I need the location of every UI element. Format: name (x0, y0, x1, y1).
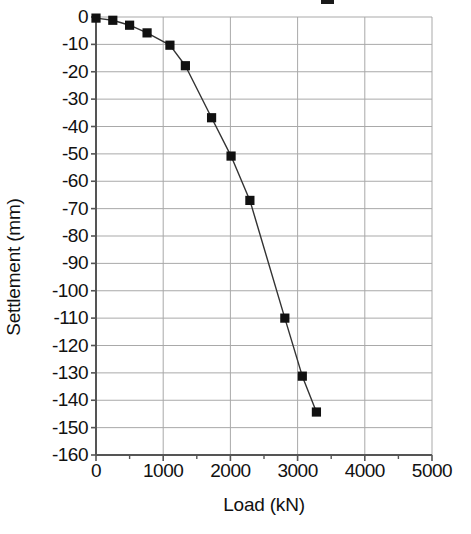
data-point-marker (207, 113, 216, 122)
y-axis-tick-label: 0 (78, 7, 88, 26)
y-axis-tick-label: -30 (62, 89, 88, 108)
y-axis-tick-label: -150 (52, 418, 88, 437)
data-point-marker (165, 41, 174, 50)
data-point-marker (108, 16, 117, 25)
y-axis-tick-label: -20 (62, 62, 88, 81)
data-point-marker (298, 372, 307, 381)
y-axis-tick-label: -140 (52, 390, 88, 409)
x-axis-tick-label: 5000 (392, 461, 471, 480)
data-point-marker (142, 28, 151, 37)
data-point-marker (91, 14, 100, 23)
x-axis-title: Load (kN) (96, 494, 432, 516)
y-axis-tick-label: -100 (52, 281, 88, 300)
y-axis-tick-label: -90 (62, 253, 88, 272)
data-point-marker (125, 21, 134, 30)
y-axis-tick-label: -10 (62, 34, 88, 53)
load-settlement-chart: Settlement (mm) Load (kN) 0-10-20-30-40-… (0, 0, 471, 534)
data-point-marker (181, 61, 190, 70)
y-axis-tick-label: -80 (62, 226, 88, 245)
y-axis-tick-label: -120 (52, 336, 88, 355)
y-axis-tick-label: -50 (62, 144, 88, 163)
y-axis-tick-label: -60 (62, 171, 88, 190)
data-point-marker (280, 314, 289, 323)
y-axis-tick-label: -130 (52, 363, 88, 382)
y-axis-tick-label: -70 (62, 199, 88, 218)
data-point-marker (226, 151, 235, 160)
data-point-marker (245, 196, 254, 205)
y-axis-tick-label: -110 (53, 308, 88, 327)
data-point-marker (312, 407, 321, 416)
y-axis-tick-label: -40 (62, 117, 88, 136)
